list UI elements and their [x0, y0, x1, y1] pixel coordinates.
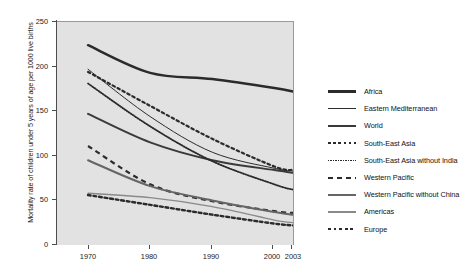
y-tick-label-0: 0	[20, 240, 48, 249]
legend-swatch-world	[328, 121, 356, 131]
legend-label-south-east-asia-without-india: South-East Asia without India	[364, 156, 457, 165]
x-tick-2003	[291, 245, 292, 249]
legend-item-south-east-asia-without-india[interactable]: South-East Asia without India	[328, 152, 472, 169]
y-axis-title: Mortality rate of children under 5 years…	[26, 0, 35, 248]
y-tick-label-100: 100	[20, 151, 48, 160]
x-tick-1990	[211, 245, 212, 249]
legend-label-western-pacific: Western Pacific	[364, 173, 414, 182]
legend: Africa Eastern Mediterranean World South…	[328, 83, 472, 238]
y-tick-label-50: 50	[20, 195, 48, 204]
x-tick-2000	[272, 245, 273, 249]
legend-swatch-south-east-asia	[328, 138, 356, 148]
legend-item-western-pacific[interactable]: Western Pacific	[328, 169, 472, 186]
legend-swatch-south-east-asia-without-india	[328, 155, 356, 165]
legend-label-africa: Africa	[364, 87, 382, 96]
x-tick-label-1990: 1990	[194, 252, 228, 261]
y-tick-label-200: 200	[20, 62, 48, 71]
series-line-world	[88, 114, 293, 173]
legend-item-south-east-asia[interactable]: South-East Asia	[328, 135, 472, 152]
legend-item-world[interactable]: World	[328, 117, 472, 134]
plot-area	[57, 21, 294, 245]
legend-swatch-western-pacific	[328, 173, 356, 183]
chart-figure: Mortality rate of children under 5 years…	[0, 0, 472, 275]
legend-item-americas[interactable]: Americas	[328, 203, 472, 220]
legend-swatch-eastern-mediterranean	[328, 104, 356, 114]
legend-label-world: World	[364, 121, 383, 130]
x-tick-label-1980: 1980	[132, 252, 166, 261]
legend-swatch-americas	[328, 207, 356, 217]
legend-label-europe: Europe	[364, 225, 387, 234]
legend-item-western-pacific-without-china[interactable]: Western Pacific without China	[328, 186, 472, 203]
legend-label-south-east-asia: South-East Asia	[364, 139, 415, 148]
legend-swatch-western-pacific-without-china	[328, 190, 356, 200]
legend-item-eastern-mediterranean[interactable]: Eastern Mediterranean	[328, 100, 472, 117]
legend-label-eastern-mediterranean: Eastern Mediterranean	[364, 104, 437, 113]
legend-swatch-europe	[328, 224, 356, 234]
series-line-africa	[88, 45, 293, 91]
x-tick-label-1970: 1970	[71, 252, 105, 261]
series-line-americas	[88, 193, 293, 222]
x-tick-1970	[88, 245, 89, 249]
x-tick-1980	[149, 245, 150, 249]
series-lines	[57, 22, 293, 245]
x-tick-label-2003: 2003	[276, 252, 310, 261]
y-tick-label-250: 250	[20, 17, 48, 26]
y-tick-label-150: 150	[20, 106, 48, 115]
legend-item-africa[interactable]: Africa	[328, 83, 472, 100]
legend-swatch-africa	[328, 87, 356, 97]
legend-label-americas: Americas	[364, 207, 394, 216]
legend-item-europe[interactable]: Europe	[328, 221, 472, 238]
legend-label-western-pacific-without-china: Western Pacific without China	[364, 190, 459, 199]
